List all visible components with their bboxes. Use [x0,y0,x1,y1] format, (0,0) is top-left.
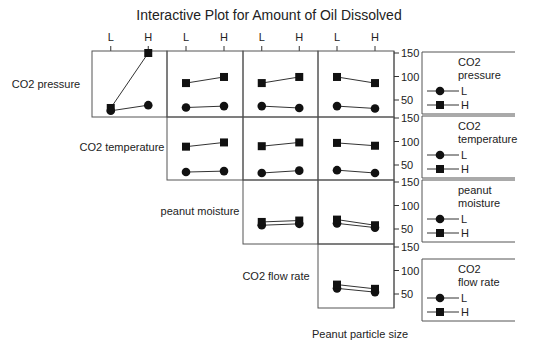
y-tick-label: 50 [401,223,413,235]
panel [318,244,394,308]
circle-marker [257,169,266,178]
square-marker [295,217,303,225]
row-factor-label: peanut moisture [161,205,240,217]
level-tick-label: H [220,31,228,43]
series-line [337,288,375,292]
circle-marker [436,151,445,160]
series-line [262,77,300,83]
y-tick-label: 100 [401,200,419,212]
row-factor-label: CO2 pressure [12,78,80,90]
square-marker [371,285,379,293]
square-marker [258,218,266,226]
legend-box: CO2temperatureLH [422,116,517,178]
panel [243,180,318,244]
legend-box: peanutmoistureLH [422,180,515,242]
legend-title: CO2 [458,120,481,132]
legend-entry-label: H [461,163,469,175]
square-marker [107,104,115,112]
y-tick-label: 50 [401,94,413,106]
row-factor-label: CO2 temperature [80,141,165,153]
circle-marker [371,169,380,178]
legend-entry-label: H [461,306,469,318]
level-tick-label: L [108,31,114,43]
y-tick-label: 100 [401,265,419,277]
square-marker [436,229,444,237]
legend-title: peanut [458,184,492,196]
square-marker [436,165,444,173]
series-line [186,171,224,172]
y-tick-label: 50 [401,288,413,300]
legend-entry-label: H [461,99,469,111]
panel [318,117,394,180]
square-marker [144,49,152,57]
series-line [186,142,224,146]
legend-entry-label: H [461,227,469,239]
series-line [337,170,375,173]
series-line [337,106,375,108]
circle-marker [295,166,304,175]
square-marker [333,216,341,224]
legend-entry-label: L [461,292,467,304]
panel [92,49,167,117]
top-level-ticks: LHLHLHLH [108,31,379,51]
legend-title: flow rate [458,276,500,288]
square-marker [182,143,190,151]
circle-marker [220,167,229,176]
panel [318,51,394,117]
circle-marker [182,103,191,112]
level-tick-label: H [144,31,152,43]
square-marker [333,73,341,81]
series-line [262,171,300,173]
legend-title: CO2 [458,263,481,275]
series-line [262,224,300,225]
panel [318,180,394,244]
circle-marker [144,101,153,110]
square-marker [258,79,266,87]
series-line [262,106,300,108]
panel [167,51,243,117]
panel [243,51,318,117]
legend-title: temperature [458,133,517,145]
series-line [262,221,300,222]
panel [243,117,318,180]
y-tick-label: 150 [401,176,419,188]
square-marker [295,73,303,81]
square-marker [436,308,444,316]
legend-title: moisture [458,197,500,209]
y-tick-label: 150 [401,112,419,124]
circle-marker [436,215,445,224]
circle-marker [220,102,229,111]
square-marker [333,281,341,289]
legend-entry-label: L [461,213,467,225]
circle-marker [182,168,191,177]
legend-entry-label: L [461,85,467,97]
chart-title: Interactive Plot for Amount of Oil Disso… [136,7,401,23]
circle-marker [436,294,445,303]
interaction-plot: Interactive Plot for Amount of Oil Disso… [0,0,539,349]
square-marker [371,142,379,150]
legend-box: CO2pressureLH [422,52,515,114]
legend-title: pressure [458,69,501,81]
series-line [186,106,224,107]
circle-marker [333,166,342,175]
legend-box: CO2flow rateLH [422,259,515,321]
series-line [337,77,375,83]
legends: CO2pressureLHCO2temperatureLHpeanutmoist… [422,52,517,321]
square-marker [371,221,379,229]
level-tick-label: L [334,31,340,43]
square-marker [220,73,228,81]
square-marker [220,138,228,146]
circle-marker [257,102,266,111]
y-axes: 50100150501001505010015050100150 [394,47,419,308]
y-tick-label: 150 [401,47,419,59]
series-line [337,143,375,146]
series-line [111,53,149,108]
square-marker [295,138,303,146]
circle-marker [371,104,380,113]
y-tick-label: 100 [401,71,419,83]
legend-title: CO2 [458,56,481,68]
panel [167,117,243,180]
circle-marker [436,87,445,96]
square-marker [333,139,341,147]
level-tick-label: L [259,31,265,43]
